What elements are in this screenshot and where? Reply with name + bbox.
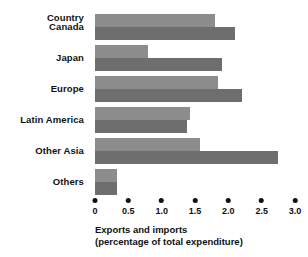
caption-line-1: Exports and imports [95,224,305,236]
tick-dot-icon [259,198,264,203]
bar-imports [95,58,222,71]
tick-dot-icon [192,198,197,203]
tick-label: 1.0 [155,206,168,216]
bar-exports [95,45,148,58]
category-label: Canada [49,22,84,32]
bar-exports [95,14,215,27]
bar-group [95,169,295,195]
tick-label: 0.5 [122,206,135,216]
bar-group [95,14,295,40]
category-label-column: Country CanadaJapanEuropeLatin AmericaOt… [0,0,88,200]
category-label: Europe [51,84,84,94]
tick-dot-icon [159,198,164,203]
bar-imports [95,182,117,195]
caption-line-2: (percentage of total expenditure) [95,236,305,248]
x-axis-tick: 3.0 [289,198,302,216]
tick-label: 2.0 [222,206,235,216]
category-label: Other Asia [35,146,84,156]
tick-label: 0 [92,206,97,216]
bar-exports [95,107,190,120]
tick-dot-icon [292,198,297,203]
x-axis-tick: 2.5 [255,198,268,216]
category-label: Others [53,177,84,187]
tick-dot-icon [126,198,131,203]
bar-chart: Country CanadaJapanEuropeLatin AmericaOt… [0,0,308,257]
category-label: Latin America [20,115,84,125]
bar-group [95,45,295,71]
bar-group [95,138,295,164]
bar-imports [95,151,278,164]
tick-label: 1.5 [189,206,202,216]
bar-imports [95,120,187,133]
x-axis-tick: 2.0 [222,198,235,216]
x-axis: 00.51.01.52.02.53.0 [95,198,295,224]
x-axis-tick: 0 [92,198,97,216]
tick-label: 2.5 [255,206,268,216]
bar-exports [95,169,117,182]
bar-group [95,76,295,102]
tick-dot-icon [92,198,97,203]
bar-imports [95,27,235,40]
tick-dot-icon [226,198,231,203]
bar-group [95,107,295,133]
plot-area [95,14,295,194]
category-label: Japan [56,53,84,63]
x-axis-caption: Exports and imports (percentage of total… [95,224,305,247]
x-axis-tick: 0.5 [122,198,135,216]
bar-imports [95,89,242,102]
x-axis-tick: 1.0 [155,198,168,216]
bar-exports [95,76,218,89]
tick-label: 3.0 [289,206,302,216]
x-axis-tick: 1.5 [189,198,202,216]
bar-exports [95,138,200,151]
